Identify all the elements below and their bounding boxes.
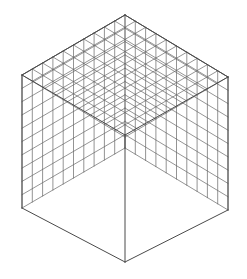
figure-canvas: Isometric base-ten block cube A wirefram… bbox=[0, 0, 247, 279]
isometric-cube-figure: Isometric base-ten block cube A wirefram… bbox=[0, 0, 247, 279]
